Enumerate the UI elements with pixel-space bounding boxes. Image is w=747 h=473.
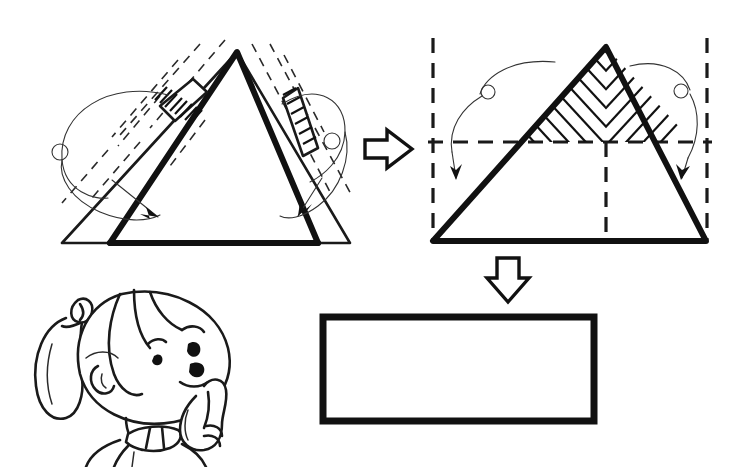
right-flap-hatch-strip — [283, 88, 318, 156]
thinking-girl — [22, 282, 262, 467]
diagram-canvas: Triangle to Rectangle Area Transformatio… — [0, 0, 747, 473]
block-arrow-down — [478, 250, 538, 310]
ponytail — [35, 318, 82, 419]
right-triangle-figure — [400, 0, 747, 280]
right-triangle-outline — [433, 47, 706, 241]
left-fold-arrow — [52, 91, 168, 220]
hatch-upper-left — [488, 0, 671, 195]
result-rectangle — [310, 304, 610, 434]
left-triangle-figure — [0, 0, 400, 280]
